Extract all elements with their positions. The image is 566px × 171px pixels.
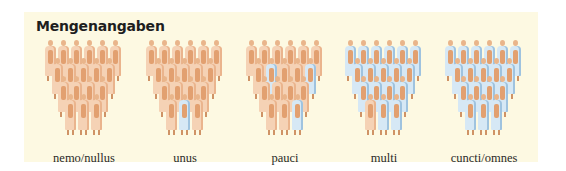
person-figure-icon xyxy=(77,94,90,138)
person-figure-icon xyxy=(390,94,403,138)
group-label: multi xyxy=(326,151,442,166)
person-figure-icon xyxy=(90,94,103,138)
person-figure-icon xyxy=(477,94,490,138)
person-figure-icon xyxy=(165,94,178,138)
figure-crowd xyxy=(237,40,333,140)
group-cuncti-omnes: cuncti/omnes xyxy=(436,40,532,155)
group-label: nemo/nullus xyxy=(26,151,142,166)
group-nemo-nullus: nemo/nullus xyxy=(36,40,132,155)
figure-crowd xyxy=(137,40,233,140)
person-figure-icon xyxy=(377,94,390,138)
group-unus: unus xyxy=(137,40,233,155)
person-figure-icon xyxy=(291,94,304,138)
person-figure-icon xyxy=(364,94,377,138)
person-figure-icon xyxy=(178,94,191,138)
group-label: unus xyxy=(127,151,243,166)
person-figure-icon xyxy=(265,94,278,138)
figure-crowd xyxy=(336,40,432,140)
group-pauci: pauci xyxy=(237,40,333,155)
person-figure-icon xyxy=(191,94,204,138)
figure-crowd xyxy=(436,40,532,140)
panel-title: Mengenangaben xyxy=(36,18,165,34)
group-multi: multi xyxy=(336,40,432,155)
person-figure-icon xyxy=(490,94,503,138)
person-figure-icon xyxy=(64,94,77,138)
quantity-panel: Mengenangaben nemo/nullus unus pauci mul… xyxy=(24,12,538,162)
figure-crowd xyxy=(36,40,132,140)
person-figure-icon xyxy=(278,94,291,138)
group-label: cuncti/omnes xyxy=(426,151,542,166)
person-figure-icon xyxy=(464,94,477,138)
